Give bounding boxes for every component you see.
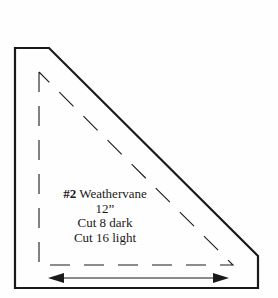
quilt-template-diagram: #2 Weathervane 12” Cut 8 dark Cut 16 lig…: [0, 0, 278, 298]
template-size: 12”: [50, 202, 160, 217]
template-name: Weathervane: [79, 186, 147, 201]
template-title: #2 Weathervane: [50, 187, 160, 202]
grain-arrow-icon: [48, 273, 229, 283]
cut-light-instruction: Cut 16 light: [50, 231, 160, 246]
outer-cut-line: [15, 48, 258, 288]
template-label: #2 Weathervane 12” Cut 8 dark Cut 16 lig…: [50, 187, 160, 245]
cut-dark-instruction: Cut 8 dark: [50, 216, 160, 231]
template-shape: [0, 0, 278, 298]
template-number: #2: [63, 186, 76, 201]
